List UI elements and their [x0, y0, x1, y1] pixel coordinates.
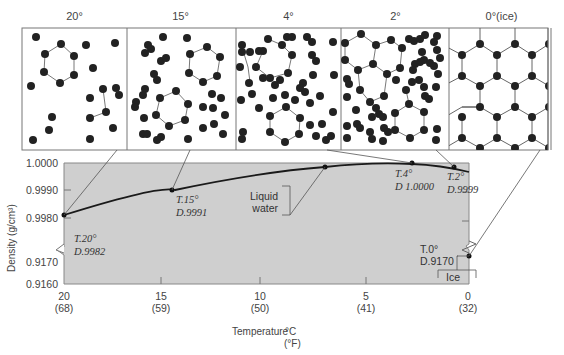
annotation-t2: T.2° D.9999	[447, 170, 478, 196]
x-tick-15-f: (59)	[141, 302, 181, 314]
y-tick-1-0000: 1.0000	[8, 157, 58, 169]
annotation-t2-density: D.9999	[447, 184, 478, 195]
x-tick-15-c: 15	[141, 290, 181, 302]
annotation-t20: T.20° D.9982	[74, 232, 105, 258]
x-axis-unit-f: (°F)	[284, 338, 301, 349]
x-tick-10-c: 10	[240, 290, 280, 302]
annotation-t0-density: D.9170	[420, 255, 454, 267]
x-tick-10: 10 (50)	[240, 290, 280, 314]
y-tick-0-9990: 0.9990	[8, 184, 58, 196]
annotation-t2-temp: T.2°	[447, 171, 464, 182]
x-axis-label: Temperature	[232, 326, 288, 337]
annotation-t4-density: D 1.0000	[395, 181, 434, 192]
y-tick-0-9160: 0.9160	[8, 278, 58, 290]
x-tick-10-f: (50)	[240, 302, 280, 314]
annotation-liquid-line1: Liquid	[250, 190, 278, 202]
y-axis-break-icon	[56, 244, 64, 253]
x-tick-20-c: 20	[44, 290, 84, 302]
x-tick-0-c: 0	[448, 290, 488, 302]
x-tick-0-f: (32)	[448, 302, 488, 314]
annotation-t0: T.0° D.9170	[420, 243, 454, 267]
ice-panel-right-border	[548, 28, 551, 150]
x-tick-0: 0 (32)	[448, 290, 488, 314]
annotation-t15-temp: T.15°	[176, 194, 198, 205]
annotation-t15: T.15° D.9991	[176, 193, 207, 219]
annotation-liquid-line2: water	[250, 202, 278, 214]
x-tick-20-f: (68)	[44, 302, 84, 314]
x-tick-5-f: (41)	[346, 302, 386, 314]
annotation-ice: Ice	[446, 271, 460, 283]
y-axis-label: Density (g/cm³)	[6, 204, 17, 272]
annotation-liquid-water: Liquid water	[250, 190, 278, 214]
annotation-t4-temp: T.4°	[395, 168, 412, 179]
x-tick-15: 15 (59)	[141, 290, 181, 314]
x-axis-unit-c: °C	[285, 326, 296, 337]
annotation-t4: T.4° D 1.0000	[395, 167, 434, 193]
x-tick-5-c: 5	[346, 290, 386, 302]
annotation-t0-temp: T.0°	[420, 243, 454, 255]
x-tick-5: 5 (41)	[346, 290, 386, 314]
annotation-t15-density: D.9991	[176, 207, 207, 218]
x-tick-20: 20 (68)	[44, 290, 84, 314]
annotation-t20-temp: T.20°	[74, 233, 96, 244]
annotation-t20-density: D.9982	[74, 246, 105, 257]
